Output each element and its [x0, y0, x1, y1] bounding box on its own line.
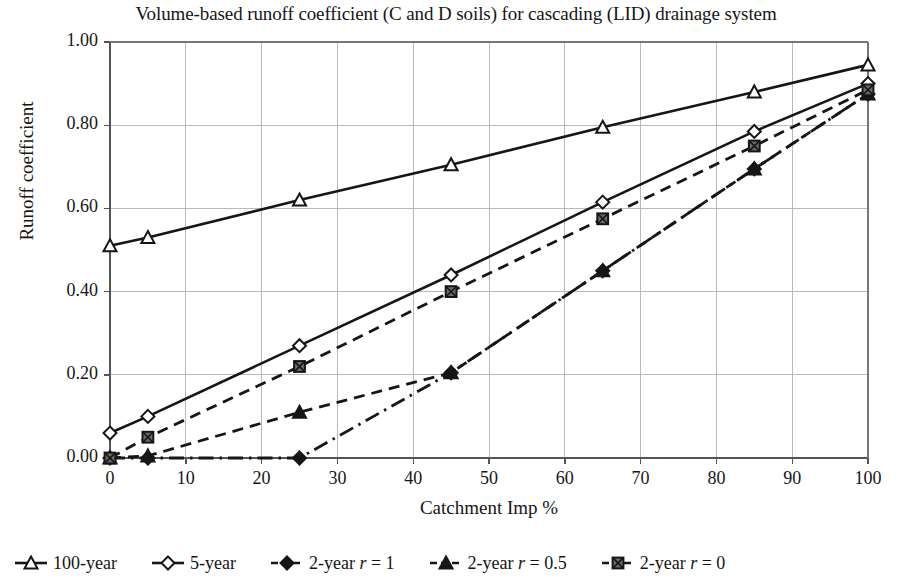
- x-tick-label: 30: [311, 468, 363, 489]
- y-tick-label: 1.00: [34, 30, 98, 51]
- y-tick-label: 0.00: [34, 446, 98, 467]
- plot-area: [0, 0, 912, 586]
- legend-label-2: 2-year r = 1: [309, 553, 395, 574]
- x-tick-label: 40: [387, 468, 439, 489]
- data-point-marker: [141, 410, 154, 423]
- legend-entry-3[interactable]: 2-year r = 0.5: [429, 553, 567, 574]
- legend-marker-diamondopen-icon: [151, 554, 185, 572]
- data-point-marker: [748, 125, 761, 138]
- chart-legend: 100-year5-year2-year r = 12-year r = 0.5…: [0, 546, 912, 580]
- x-tick-label: 60: [539, 468, 591, 489]
- legend-label-3: 2-year r = 0.5: [468, 553, 567, 574]
- legend-entry-2[interactable]: 2-year r = 1: [270, 553, 395, 574]
- legend-marker-triangleopen-icon: [14, 554, 48, 572]
- y-tick-label: 0.20: [34, 363, 98, 384]
- data-point-marker: [597, 213, 608, 224]
- axis-ticks: [104, 42, 868, 464]
- data-point-marker: [445, 268, 458, 281]
- data-point-marker: [104, 427, 117, 440]
- data-point-marker: [105, 453, 116, 464]
- data-point-marker: [143, 432, 154, 443]
- data-point-marker: [446, 286, 457, 297]
- legend-marker-trianglefilled-icon: [429, 554, 463, 572]
- y-tick-label: 0.60: [34, 196, 98, 217]
- legend-marker-diamondfilled-icon: [270, 554, 304, 572]
- data-point-marker: [862, 58, 875, 70]
- x-tick-label: 100: [842, 468, 894, 489]
- y-tick-label: 0.40: [34, 280, 98, 301]
- x-tick-label: 20: [236, 468, 288, 489]
- legend-label-4: 2-year r = 0: [640, 553, 726, 574]
- x-tick-label: 10: [160, 468, 212, 489]
- data-point-marker: [293, 339, 306, 352]
- data-point-marker: [596, 196, 609, 209]
- chart-figure: Volume-based runoff coefficient (C and D…: [0, 0, 912, 586]
- x-tick-label: 70: [615, 468, 667, 489]
- data-point-marker: [293, 452, 306, 465]
- x-tick-label: 50: [463, 468, 515, 489]
- legend-label-0: 100-year: [53, 553, 117, 574]
- legend-label-1: 5-year: [190, 553, 236, 574]
- x-tick-label: 0: [84, 468, 136, 489]
- legend-marker-squarefilled-icon: [601, 554, 635, 572]
- x-tick-label: 90: [766, 468, 818, 489]
- data-point-marker: [863, 84, 874, 95]
- legend-entry-4[interactable]: 2-year r = 0: [601, 553, 726, 574]
- x-tick-label: 80: [690, 468, 742, 489]
- legend-entry-1[interactable]: 5-year: [151, 553, 236, 574]
- y-tick-label: 0.80: [34, 113, 98, 134]
- legend-entry-0[interactable]: 100-year: [14, 553, 117, 574]
- data-point-marker: [749, 141, 760, 152]
- data-point-marker: [294, 361, 305, 372]
- gridlines: [110, 42, 868, 458]
